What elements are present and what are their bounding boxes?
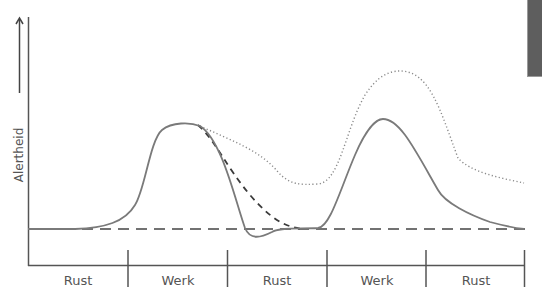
segment-label-rust-3: Rust	[462, 273, 491, 288]
dotted-curve	[200, 71, 524, 184]
segment-label-werk-2: Werk	[361, 273, 394, 288]
y-axis-label: Alertheid	[12, 128, 26, 183]
y-axis-arrow-icon	[16, 18, 23, 93]
segment-label-werk-1: Werk	[162, 273, 195, 288]
segment-label-rust-2: Rust	[263, 273, 292, 288]
edge-block	[527, 0, 542, 77]
segment-label-rust-1: Rust	[64, 273, 93, 288]
dashed-curve	[198, 125, 305, 229]
